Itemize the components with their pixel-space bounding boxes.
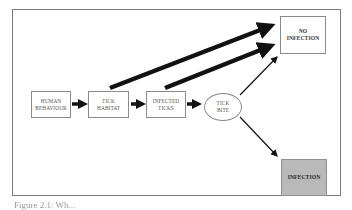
node-tick-habitat: TICK HABITAT [88, 91, 129, 118]
node-tick-bite: TICK BITE [204, 93, 242, 121]
node-infected-ticks: INFECTED TICKS [146, 91, 186, 118]
node-no-infection: NO INFECTION [280, 16, 326, 54]
arrow-bite-to-no-infection [240, 57, 277, 95]
node-human-behaviour: HUMAN BEHAVIOUR [31, 91, 71, 118]
arrow-bite-to-infection [240, 117, 277, 156]
node-infection: INFECTION [281, 159, 327, 196]
figure-caption: Figure 2.1: Wh... [14, 200, 344, 210]
